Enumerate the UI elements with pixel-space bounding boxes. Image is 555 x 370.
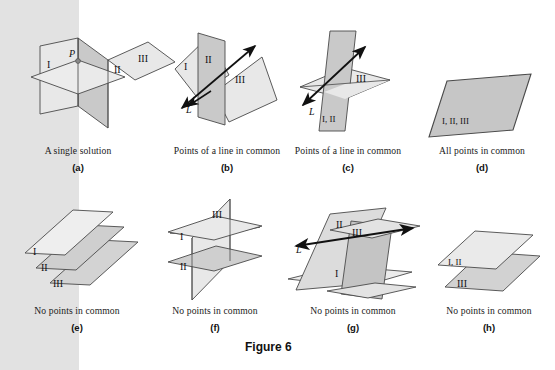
panel-b-caption: Points of a line in common	[157, 145, 297, 156]
panel-a-label-III: III	[138, 53, 148, 64]
panel-b-label-III: III	[235, 74, 245, 85]
panel-d-plane-all	[429, 74, 531, 137]
panel-h-label-I-II: I, II	[448, 257, 462, 267]
panel-a-label-I: I	[47, 59, 50, 70]
panel-e-label-II: II	[41, 262, 48, 273]
panel-f-caption: No points in common	[150, 305, 280, 316]
panel-g-label-III: III	[352, 227, 362, 238]
panel-a-caption: A single solution	[18, 145, 138, 156]
panel-e-graphic: I II III	[25, 210, 138, 289]
panel-g-caption: No points in common	[288, 305, 418, 316]
panel-f-graphic: I II III	[168, 199, 262, 300]
figure-label: Figure 6	[245, 340, 292, 354]
panel-d-graphic: I, II, III	[429, 74, 531, 137]
panel-c-caption: Points of a line in common	[278, 145, 418, 156]
panel-c-label-III: III	[356, 73, 366, 84]
panel-a-label-II: II	[114, 64, 121, 75]
panel-b-label-II: II	[205, 54, 212, 65]
panel-e-caption: No points in common	[12, 305, 142, 316]
panel-b-graphic: I II III L	[175, 33, 277, 125]
panel-b-sublabel: (b)	[157, 162, 297, 173]
panel-e-label-III: III	[53, 278, 63, 289]
panel-f-label-III: III	[212, 209, 222, 220]
panel-f-sublabel: (f)	[150, 322, 280, 333]
panel-a-label-P: P	[68, 48, 75, 59]
panel-g-label-L: L	[295, 244, 302, 255]
panel-a-sublabel: (a)	[18, 162, 138, 173]
panel-f-label-II: II	[180, 261, 187, 272]
panel-a-point-P-dot	[76, 59, 81, 64]
panel-d-sublabel: (d)	[417, 162, 547, 173]
panel-g-label-II: II	[336, 219, 343, 230]
panel-g-graphic: I II III L	[288, 208, 420, 299]
panel-e-label-I: I	[33, 246, 36, 257]
panel-e-sublabel: (e)	[12, 322, 142, 333]
panel-g-label-I: I	[335, 268, 338, 279]
panel-d-caption: All points in common	[417, 145, 547, 156]
panel-c-graphic: I, II III L	[300, 31, 390, 131]
panel-b-plane-2	[198, 33, 225, 125]
panel-h-label-III: III	[457, 278, 467, 289]
panel-b-label-I: I	[184, 61, 187, 72]
panel-h-graphic: I, II III	[438, 231, 540, 291]
panel-c-label-L: L	[308, 106, 315, 117]
panel-c-label-I-II: I, II	[322, 114, 336, 124]
panel-d-label-all: I, II, III	[442, 116, 469, 126]
figure-page: I P II III I II III L	[0, 0, 555, 370]
panel-h-caption: No points in common	[424, 305, 554, 316]
panel-h-sublabel: (h)	[424, 322, 554, 333]
panel-f-label-I: I	[180, 231, 183, 242]
panel-b-label-L: L	[185, 104, 192, 115]
panel-a-graphic: I P II III	[31, 38, 175, 128]
panel-g-sublabel: (g)	[288, 322, 418, 333]
panel-c-sublabel: (c)	[278, 162, 418, 173]
